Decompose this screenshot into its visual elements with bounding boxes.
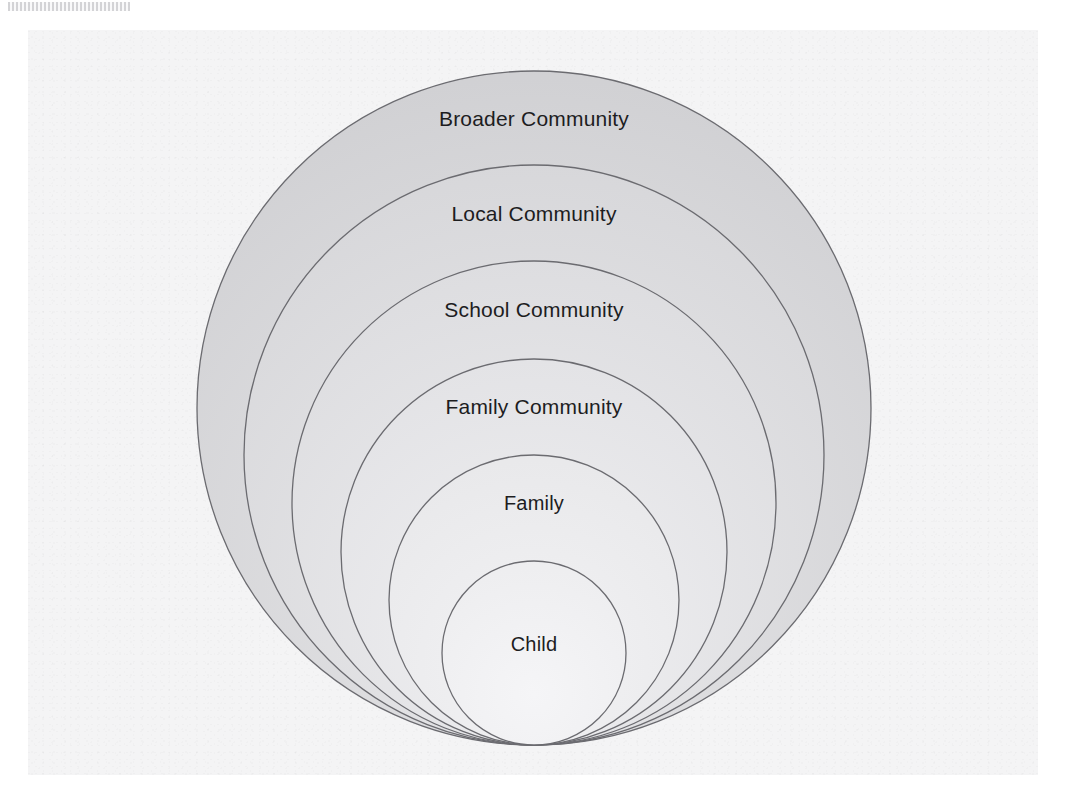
ring-group-child[interactable]: Child bbox=[442, 561, 626, 745]
ring-label-child: Child bbox=[511, 633, 558, 655]
ring-label-family: Family bbox=[504, 492, 564, 514]
ring-label-broader-community: Broader Community bbox=[439, 107, 629, 130]
ring-label-local-community: Local Community bbox=[451, 202, 617, 225]
page-root: Broader Community Local Community School… bbox=[0, 0, 1070, 811]
ring-label-school-community: School Community bbox=[444, 298, 624, 321]
ring-label-family-community: Family Community bbox=[445, 395, 622, 418]
nested-circles-diagram: Broader Community Local Community School… bbox=[0, 0, 1070, 811]
